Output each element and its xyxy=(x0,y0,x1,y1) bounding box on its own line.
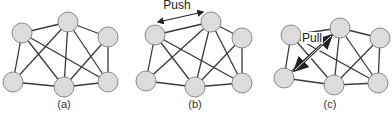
graph-node xyxy=(58,12,78,32)
panel-caption-c: (c) xyxy=(324,98,337,110)
graph-node xyxy=(98,72,118,92)
pull-label: Pull xyxy=(302,31,322,45)
panel-b-graph: Push(b) xyxy=(136,0,252,110)
graph-node xyxy=(368,73,388,93)
force-directed-graph-figure: (a) Push(b) Pull(c) xyxy=(0,0,392,118)
graph-edge xyxy=(155,35,242,83)
push-arrow-icon xyxy=(158,12,203,22)
graph-node xyxy=(136,71,156,91)
graph-node xyxy=(12,23,32,43)
graph-node xyxy=(232,28,252,48)
panel-caption-a: (a) xyxy=(57,98,70,110)
graph-node xyxy=(185,77,205,97)
panel-c-graph: Pull(c) xyxy=(274,18,390,110)
push-label: Push xyxy=(163,0,190,12)
graph-node xyxy=(201,12,221,32)
panel-caption-b: (b) xyxy=(188,98,201,110)
graph-node xyxy=(3,72,23,92)
graph-node xyxy=(370,28,390,48)
graph-node xyxy=(54,77,74,97)
graph-node xyxy=(281,25,301,45)
graph-node xyxy=(98,27,118,47)
panel-a-graph: (a) xyxy=(3,12,118,110)
graph-node xyxy=(324,75,344,95)
graph-node xyxy=(274,68,294,88)
graph-node xyxy=(330,18,350,38)
graph-node xyxy=(145,25,165,45)
graph-node xyxy=(232,73,252,93)
